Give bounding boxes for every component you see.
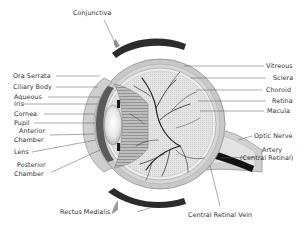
label-artery-line1: Artery (262, 147, 282, 154)
label-iris: Iris (14, 101, 24, 108)
label-vitreous: Vitreous (266, 63, 293, 70)
label-rectus-medialis: Rectus Medialis (60, 209, 110, 216)
label-ora-serrata: Ora Serrata (13, 73, 51, 80)
label-macula: Macula (267, 108, 290, 115)
label-optic-nerve: Optic Nerve (254, 133, 293, 140)
label-anterior-chamber-line2: Chamber (14, 137, 44, 144)
label-pupil: Pupil (14, 120, 30, 127)
label-cornea: Cornea (14, 111, 37, 118)
rectus-medialis (108, 188, 186, 208)
label-central-retinal-vein: Central Retinal Vein (188, 212, 252, 219)
label-retina: Retina (272, 98, 293, 105)
label-anterior-chamber-line1: Anterior (19, 128, 45, 135)
eye-illustration (0, 0, 307, 234)
label-sclera: Sclera (273, 75, 293, 82)
label-conjunctiva: Conjunctiva (73, 10, 111, 17)
label-lens: Lens (14, 149, 29, 156)
label-ciliary-body: Ciliary Body (13, 84, 52, 91)
eye-anatomy-diagram: Conjunctiva Ora Serrata Ciliary Body Aqu… (0, 0, 307, 234)
lens (104, 105, 122, 145)
label-artery-line2: (Central Retinal) (240, 155, 293, 162)
label-choroid: Choroid (266, 87, 291, 94)
rectus-superior (112, 38, 186, 58)
label-posterior-chamber-line1: Posterior (17, 162, 46, 169)
label-posterior-chamber-line2: Chamber (14, 171, 44, 178)
